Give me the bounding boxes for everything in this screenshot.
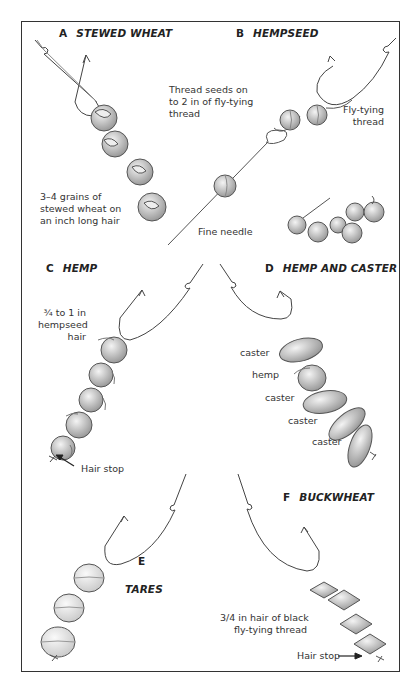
hook-b-drawing xyxy=(317,38,396,105)
note-line: ¾ to 1 in xyxy=(38,307,86,319)
hook-a-drawing xyxy=(35,40,100,116)
panel-c-hair-stop-label: Hair stop xyxy=(81,463,124,475)
hook-c-drawing xyxy=(119,264,203,340)
panel-e-title: TARES xyxy=(125,583,163,595)
panel-c-letter: C xyxy=(46,262,54,274)
bait-label-caster-1: caster xyxy=(240,347,269,359)
tares-e xyxy=(41,564,104,661)
panel-b-title: HEMPSEED xyxy=(253,27,319,39)
note-line: fly-tying thread xyxy=(220,624,307,636)
bait-label-caster-3: caster xyxy=(288,415,317,427)
panel-a-heading: ASTEWED WHEAT xyxy=(59,27,172,39)
hair-stop-arrow-f xyxy=(338,653,362,659)
note-line: an inch long hair xyxy=(40,215,121,227)
panel-c-note: ¾ to 1 in hempseed hair xyxy=(38,307,86,343)
hemp-cluster-b xyxy=(288,196,384,243)
panel-a-letter: A xyxy=(59,27,67,39)
panel-c-title: HEMP xyxy=(63,262,98,274)
panel-a-title: STEWED WHEAT xyxy=(76,27,172,39)
bait-label-hemp: hemp xyxy=(252,369,279,381)
bait-label-caster-2: caster xyxy=(265,392,294,404)
hook-e-drawing xyxy=(105,474,186,565)
panel-f-letter: F xyxy=(283,491,290,503)
note-line: 3–4 grains of xyxy=(40,191,121,203)
panel-a-note: 3–4 grains of stewed wheat on an inch lo… xyxy=(40,191,121,227)
note-line: Fly-tying xyxy=(338,104,384,116)
panel-f-heading: FBUCKWHEAT xyxy=(283,491,374,503)
note-line: hair xyxy=(38,331,86,343)
panel-d-letter: D xyxy=(265,262,274,274)
fly-tying-thread-label: Fly-tying thread xyxy=(338,104,384,128)
bait-label-caster-4: caster xyxy=(312,436,341,448)
panel-f-title: BUCKWHEAT xyxy=(299,491,374,503)
panel-c-heading: CHEMP xyxy=(46,262,97,274)
panel-b-note: Thread seeds on to 2 in of fly-tying thr… xyxy=(169,84,253,120)
panel-b-letter: B xyxy=(236,27,244,39)
panel-d-title: HEMP AND CASTER xyxy=(283,262,397,274)
note-line: 3/4 in hair of black xyxy=(220,612,307,624)
panel-e-title-text: TARES xyxy=(125,583,163,595)
panel-b-heading: BHEMPSEED xyxy=(236,27,319,39)
note-line: hempseed xyxy=(38,319,86,331)
hemp-seeds-c xyxy=(49,337,127,462)
hook-f-drawing xyxy=(238,474,319,571)
panel-e-letter: E xyxy=(138,555,145,567)
panel-d-heading: DHEMP AND CASTER xyxy=(265,262,397,274)
note-line: thread xyxy=(169,108,253,120)
note-line: thread xyxy=(338,116,384,128)
note-line: Thread seeds on xyxy=(169,84,253,96)
panel-f-hair-stop-label: Hair stop xyxy=(297,650,340,662)
panel-f-note: 3/4 in hair of black fly-tying thread xyxy=(220,612,307,636)
note-line: to 2 in of fly-tying xyxy=(169,96,253,108)
note-line: stewed wheat on xyxy=(40,203,121,215)
fine-needle-label: Fine needle xyxy=(198,226,253,238)
